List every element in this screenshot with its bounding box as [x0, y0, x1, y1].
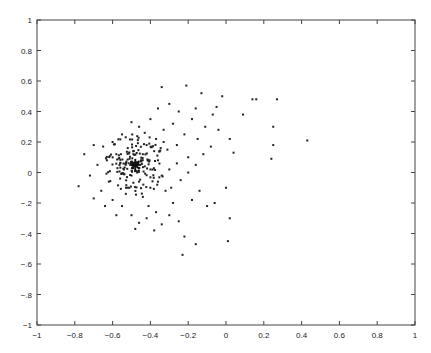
- data-point: [128, 152, 130, 154]
- data-point: [129, 158, 131, 160]
- data-point: [142, 196, 144, 198]
- data-point: [127, 158, 129, 160]
- data-point: [135, 194, 137, 196]
- data-point: [144, 132, 146, 134]
- data-point: [117, 184, 119, 186]
- data-point: [195, 243, 197, 245]
- x-tick-label: 0.4: [296, 331, 308, 340]
- data-point: [129, 138, 131, 140]
- data-point: [187, 156, 189, 158]
- data-point: [116, 159, 118, 161]
- data-point: [156, 155, 158, 157]
- y-tick-label: −.8: [21, 291, 33, 300]
- data-point: [147, 160, 149, 162]
- data-point: [142, 184, 144, 186]
- data-point: [135, 145, 137, 147]
- data-point: [157, 107, 159, 109]
- y-tick-label: 1: [28, 16, 33, 25]
- data-point: [146, 217, 148, 219]
- data-point: [154, 160, 156, 162]
- data-point: [155, 138, 157, 140]
- data-point: [131, 143, 133, 145]
- data-point: [225, 187, 227, 189]
- x-tick-label: 0.6: [334, 331, 346, 340]
- data-point: [134, 186, 136, 188]
- data-point: [153, 150, 155, 152]
- data-point: [242, 114, 244, 116]
- data-point: [270, 158, 272, 160]
- data-point: [105, 173, 107, 175]
- x-tick-label: 0: [224, 331, 229, 340]
- data-point: [142, 166, 144, 168]
- data-point: [176, 162, 178, 164]
- data-point: [114, 143, 116, 145]
- data-point: [191, 118, 193, 120]
- data-point: [137, 149, 139, 151]
- data-point: [148, 143, 150, 145]
- data-point: [183, 133, 185, 135]
- data-point: [161, 86, 163, 88]
- data-point: [100, 190, 102, 192]
- data-point: [141, 193, 143, 195]
- x-tick-label: −0.2: [180, 331, 196, 340]
- data-point: [168, 103, 170, 105]
- data-point: [182, 254, 184, 256]
- data-point: [131, 121, 133, 123]
- data-point: [148, 205, 150, 207]
- data-point: [151, 169, 153, 171]
- data-point: [127, 147, 129, 149]
- x-tick-label: −0.4: [143, 331, 159, 340]
- data-point: [116, 171, 118, 173]
- data-point: [123, 163, 125, 165]
- data-point: [130, 186, 132, 188]
- data-point: [121, 158, 123, 160]
- data-point: [129, 174, 131, 176]
- scatter-chart: −1−0.8−0.6−0.4−0.200.20.40.60.81 10.80.6…: [0, 0, 431, 353]
- y-tick-label: 0.6: [21, 77, 33, 86]
- data-point: [200, 92, 202, 94]
- data-point: [131, 214, 133, 216]
- data-point: [126, 168, 128, 170]
- data-point: [157, 181, 159, 183]
- data-point: [102, 146, 104, 148]
- data-point: [132, 182, 134, 184]
- data-point: [160, 147, 162, 149]
- data-point: [120, 153, 122, 155]
- data-point: [125, 187, 127, 189]
- data-point: [191, 199, 193, 201]
- data-point: [148, 163, 150, 165]
- data-point: [138, 126, 140, 128]
- data-point: [163, 129, 165, 131]
- data-point: [212, 114, 214, 116]
- data-point: [139, 153, 141, 155]
- data-point: [149, 136, 151, 138]
- data-point: [89, 175, 91, 177]
- data-point: [125, 184, 127, 186]
- data-point: [153, 229, 155, 231]
- data-point: [121, 205, 123, 207]
- data-point: [124, 166, 126, 168]
- data-point: [158, 163, 160, 165]
- data-point: [138, 222, 140, 224]
- data-point: [165, 190, 167, 192]
- data-point: [105, 157, 107, 159]
- data-point: [152, 174, 154, 176]
- x-tick-label: 1: [413, 331, 418, 340]
- data-point: [142, 153, 144, 155]
- y-tick-label: 0: [28, 169, 33, 178]
- plot-area: [37, 20, 415, 325]
- y-tick-label: 0.2: [21, 138, 33, 147]
- data-point: [144, 165, 146, 167]
- data-point: [140, 187, 142, 189]
- data-point: [118, 154, 120, 156]
- data-point: [143, 143, 145, 145]
- data-point: [168, 168, 170, 170]
- data-point: [119, 138, 121, 140]
- data-point: [131, 133, 133, 135]
- x-tick-label: 0.2: [258, 331, 270, 340]
- data-point: [272, 126, 274, 128]
- data-point: [214, 202, 216, 204]
- data-point: [138, 137, 140, 139]
- data-point: [131, 157, 133, 159]
- data-point: [104, 205, 106, 207]
